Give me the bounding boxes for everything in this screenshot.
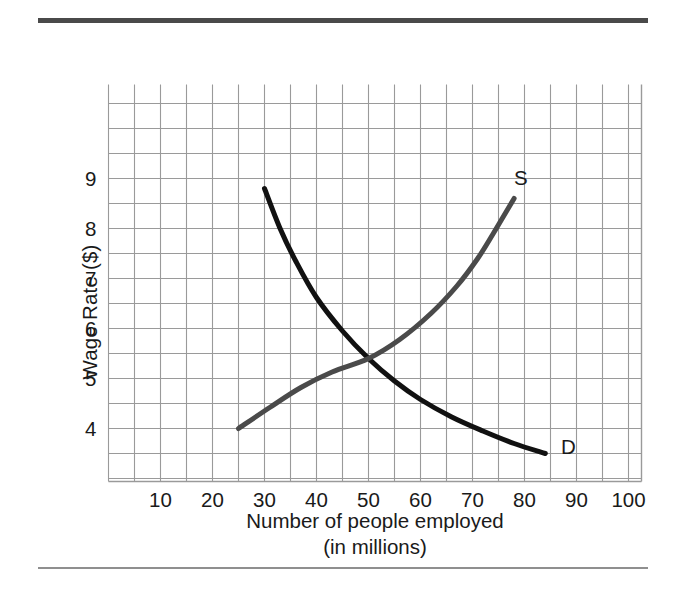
y-tick-4: 4 [85, 417, 96, 441]
y-tick-6: 6 [85, 317, 96, 341]
grid-lines-minor [109, 85, 642, 482]
y-tick-8: 8 [85, 217, 96, 241]
curve-label-d: D [561, 435, 576, 459]
x-axis-title: Number of people employed (in millions) [110, 508, 640, 560]
x-axis-title-line2: (in millions) [110, 534, 640, 560]
figure-container: Wage Rate ($) 456789 1020304050607080901… [0, 0, 675, 595]
curve-label-s: S [514, 166, 528, 190]
y-tick-9: 9 [85, 167, 96, 191]
x-axis-title-line1: Number of people employed [110, 508, 640, 534]
y-tick-5: 5 [85, 367, 96, 391]
y-tick-7: 7 [85, 267, 96, 291]
